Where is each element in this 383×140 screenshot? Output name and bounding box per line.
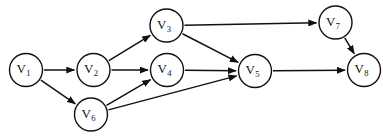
node-v5[interactable]: V5 (239, 55, 272, 88)
node-subscript-v6: 6 (91, 112, 95, 122)
edge-v7-to-v8 (345, 38, 354, 54)
edge-v4-to-v5 (185, 70, 236, 71)
graph-figure: V1V2V3V4V5V6V7V8 (0, 0, 383, 140)
node-v6[interactable]: V6 (75, 98, 108, 131)
edge-v2-to-v3 (109, 35, 150, 60)
edge-v3-to-v7 (184, 23, 316, 25)
directed-graph-canvas: V1V2V3V4V5V6V7V8 (0, 0, 383, 140)
node-v3[interactable]: V3 (150, 9, 183, 42)
edge-v3-to-v5 (183, 34, 239, 63)
edge-v6-to-v4 (107, 80, 151, 106)
node-v8[interactable]: V8 (348, 54, 381, 87)
node-subscript-v8: 8 (364, 68, 368, 78)
node-subscript-v2: 2 (94, 68, 98, 78)
node-v7[interactable]: V7 (319, 6, 352, 39)
node-v4[interactable]: V4 (151, 54, 184, 87)
node-v2[interactable]: V2 (77, 54, 110, 87)
node-subscript-v7: 7 (336, 20, 340, 30)
node-v1[interactable]: V1 (10, 54, 43, 87)
edge-v5-to-v8 (273, 70, 345, 71)
node-subscript-v1: 1 (26, 68, 30, 78)
node-subscript-v5: 5 (255, 69, 259, 79)
node-subscript-v4: 4 (167, 68, 172, 78)
node-subscript-v3: 3 (167, 23, 171, 33)
edge-v1-to-v6 (41, 80, 75, 104)
